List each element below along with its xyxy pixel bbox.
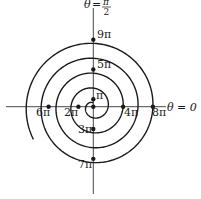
label-2pi: 2π <box>64 106 78 119</box>
label-8pi: 8π <box>152 106 166 119</box>
vertical-axis-label: θ = π 2 <box>84 0 111 17</box>
spiral-curve <box>26 43 153 162</box>
point-1pi <box>91 97 95 101</box>
label-7pi: 7π <box>78 158 92 171</box>
label-9pi: 9π <box>97 28 111 41</box>
svg-text:π: π <box>102 0 110 7</box>
label-6pi: 6π <box>36 106 50 119</box>
svg-text:θ: θ <box>84 0 91 11</box>
polar-spiral-diagram: π 2π 3π 4π 5π 6π 7π 8π 9π θ = π 2 θ = 0 <box>0 0 201 199</box>
label-4pi: 4π <box>124 106 138 119</box>
svg-text:=: = <box>92 0 101 11</box>
point-9pi <box>91 37 95 41</box>
origin-point <box>91 105 95 109</box>
svg-text:2: 2 <box>104 7 110 17</box>
label-5pi: 5π <box>97 58 111 71</box>
horizontal-axis-label: θ = 0 <box>167 101 197 114</box>
label-pi: π <box>96 89 103 102</box>
label-3pi: 3π <box>78 123 92 136</box>
point-5pi <box>91 67 95 71</box>
